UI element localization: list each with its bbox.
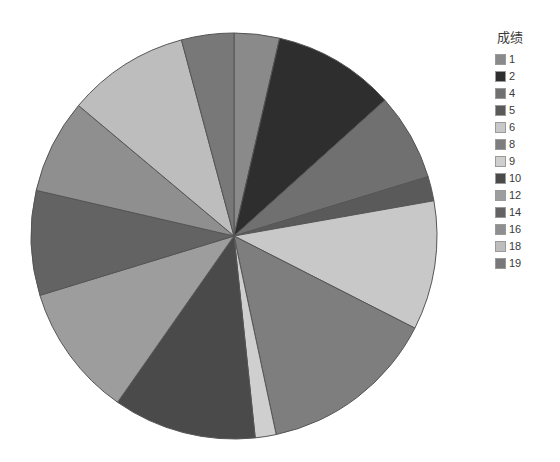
pie-chart-figure: 成绩 1245689101214161819: [0, 0, 560, 462]
legend-swatch-18: [495, 241, 506, 252]
legend-label-18: 18: [509, 241, 521, 252]
legend-label-2: 2: [509, 71, 515, 82]
legend-label-4: 4: [509, 88, 515, 99]
legend-swatch-10: [495, 173, 506, 184]
legend-item-6[interactable]: 6: [495, 119, 559, 135]
legend-label-6: 6: [509, 122, 515, 133]
legend-label-16: 16: [509, 224, 521, 235]
legend-swatch-5: [495, 105, 506, 116]
legend-swatch-2: [495, 71, 506, 82]
legend-item-9[interactable]: 9: [495, 153, 559, 169]
pie-plot-area: [0, 0, 470, 462]
legend-item-5[interactable]: 5: [495, 102, 559, 118]
legend-swatch-9: [495, 156, 506, 167]
legend-item-19[interactable]: 19: [495, 255, 559, 271]
legend-swatch-6: [495, 122, 506, 133]
legend-swatch-4: [495, 88, 506, 99]
legend-item-8[interactable]: 8: [495, 136, 559, 152]
pie-slice-group: [31, 33, 437, 439]
legend-label-9: 9: [509, 156, 515, 167]
legend-label-8: 8: [509, 139, 515, 150]
legend-label-14: 14: [509, 207, 521, 218]
legend-item-18[interactable]: 18: [495, 238, 559, 254]
legend-item-1[interactable]: 1: [495, 51, 559, 67]
legend-swatch-14: [495, 207, 506, 218]
legend-item-10[interactable]: 10: [495, 170, 559, 186]
legend-item-4[interactable]: 4: [495, 85, 559, 101]
legend: 成绩 1245689101214161819: [495, 30, 559, 272]
legend-label-12: 12: [509, 190, 521, 201]
legend-item-12[interactable]: 12: [495, 187, 559, 203]
legend-swatch-1: [495, 54, 506, 65]
legend-title: 成绩: [497, 30, 559, 46]
legend-swatch-8: [495, 139, 506, 150]
legend-item-2[interactable]: 2: [495, 68, 559, 84]
legend-label-10: 10: [509, 173, 521, 184]
legend-item-list: 1245689101214161819: [495, 51, 559, 271]
legend-swatch-19: [495, 258, 506, 269]
legend-swatch-12: [495, 190, 506, 201]
legend-label-5: 5: [509, 105, 515, 116]
legend-label-19: 19: [509, 258, 521, 269]
legend-label-1: 1: [509, 54, 515, 65]
pie-svg: [0, 0, 470, 462]
legend-swatch-16: [495, 224, 506, 235]
legend-item-16[interactable]: 16: [495, 221, 559, 237]
legend-item-14[interactable]: 14: [495, 204, 559, 220]
